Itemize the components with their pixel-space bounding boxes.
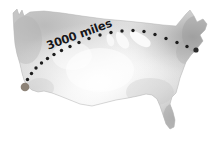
route-dot [52,53,55,56]
us-map-distance-figure: 3000 miles [0,0,224,142]
route-dot [26,78,29,81]
route-dot [185,45,188,48]
route-dot [120,29,123,32]
route-dot [131,29,134,32]
us-map-graphic [0,0,224,142]
route-dot [153,33,156,36]
route-dot [109,31,112,34]
route-dot [142,30,145,33]
route-dot [175,41,178,44]
route-dot [46,57,49,60]
route-dot [30,72,33,75]
route-dot [164,37,167,40]
route-dot [60,49,63,52]
route-dot [40,61,43,64]
east-coast-destination-marker [193,47,198,52]
west-coast-origin-marker [22,84,28,90]
route-dot [34,66,37,69]
usa-landmass [0,0,224,142]
